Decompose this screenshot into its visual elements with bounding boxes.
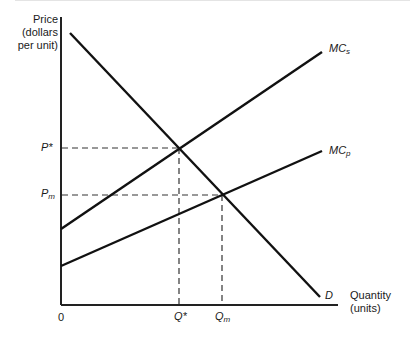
x-label-line-1: Quantity: [350, 289, 391, 302]
q-m-main: Q: [215, 310, 224, 322]
p-m-sub: m: [48, 192, 55, 201]
mc-private-label: MCp: [329, 144, 351, 160]
mc-social-label: MCs: [329, 42, 350, 58]
q-m-sub: m: [224, 315, 231, 324]
mcp-main: MC: [329, 144, 346, 156]
mc-social-curve: [61, 52, 322, 229]
mc-private-curve: [61, 151, 322, 266]
q-m-label: Qm: [215, 310, 230, 326]
y-axis-label: Price (dollars per unit): [0, 13, 58, 52]
mcp-sub: p: [346, 149, 350, 158]
x-axis-label: Quantity (units): [350, 289, 391, 315]
mcs-sub: s: [346, 47, 350, 56]
y-label-line-2: (dollars: [0, 26, 58, 39]
y-label-line-3: per unit): [0, 39, 58, 52]
x-label-line-2: (units): [350, 302, 391, 315]
origin-label: 0: [58, 311, 64, 324]
p-star-label: P*: [41, 141, 53, 154]
y-label-line-1: Price: [0, 13, 58, 26]
demand-curve: [70, 33, 320, 297]
p-m-label: Pm: [41, 187, 55, 203]
mcs-main: MC: [329, 42, 346, 54]
q-star-label: Q*: [174, 310, 187, 323]
demand-label: D: [325, 289, 333, 302]
